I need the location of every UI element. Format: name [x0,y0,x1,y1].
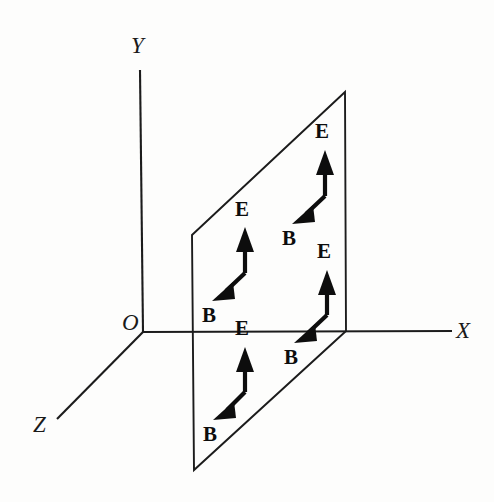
x-axis-line [143,331,452,332]
origin-label: O [122,310,139,335]
axis-label-x: X [455,318,471,343]
physics-diagram-canvas: Y X Z O E B E B E B E B [0,0,494,502]
e-vector-arrowhead-upper-right [316,150,334,175]
y-axis-line [140,70,143,332]
field-pair-middle-left [212,227,254,301]
e-vector-arrowhead-lower-left [236,347,254,372]
e-label-lower-left: E [235,316,249,340]
b-label-upper-right: B [282,226,296,250]
axes-group [57,70,452,419]
plane-group [192,92,346,470]
field-pair-upper-right [292,150,334,224]
b-vector-arrowhead-upper-right [292,205,315,224]
b-label-lower-right: B [284,345,298,369]
z-axis-line [57,332,143,419]
e-vector-arrowhead-lower-right [318,270,336,295]
e-vector-arrowhead-middle-left [236,227,254,252]
e-label-lower-right: E [317,239,331,263]
b-vector-arrowhead-middle-left [212,282,235,301]
e-label-upper-right: E [315,119,329,143]
field-pair-lower-left [213,347,254,420]
axis-label-y: Y [131,33,146,58]
diagram-svg: Y X Z O E B E B E B E B [0,0,494,502]
b-label-middle-left: B [202,303,216,327]
xy-wavefront-plane [192,92,346,470]
b-vector-arrowhead-lower-right [294,324,317,343]
axis-label-z: Z [33,412,46,437]
field-vectors-group [212,150,336,420]
b-label-lower-left: B [203,422,217,446]
b-vector-arrowhead-lower-left [213,401,236,420]
e-label-middle-left: E [235,197,249,221]
